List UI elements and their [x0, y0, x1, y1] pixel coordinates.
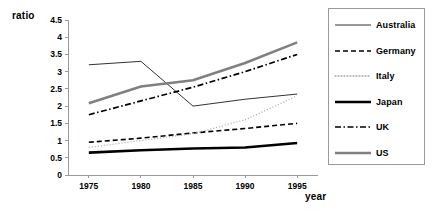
legend-label: Italy	[376, 71, 395, 81]
x-axis-tick-group: 19751980198519901995	[79, 175, 307, 191]
series-line-japan	[89, 143, 297, 153]
y-axis-tick-group: 00.511.522.533.544.5	[50, 15, 68, 180]
y-tick-label: 1	[57, 136, 62, 146]
legend-item-japan[interactable]: Japan	[329, 89, 426, 115]
series-line-italy	[89, 96, 297, 148]
y-tick-label: 3	[57, 67, 62, 77]
legend-label: Germany	[376, 46, 416, 56]
y-tick-label: 2.5	[50, 84, 62, 94]
y-tick-label: 3.5	[50, 49, 62, 59]
legend-label: US	[376, 148, 389, 158]
x-tick-label: 1985	[184, 181, 203, 191]
y-tick-label: 0.5	[50, 153, 62, 163]
y-tick-label: 2	[57, 101, 62, 111]
legend-label: UK	[376, 122, 389, 132]
data-series-group	[89, 42, 297, 152]
y-tick-label: 0	[57, 170, 62, 180]
legend-swatch-germany-icon	[334, 44, 372, 58]
y-tick-label: 4	[57, 32, 62, 42]
x-tick-label: 1990	[236, 181, 255, 191]
series-line-germany	[89, 123, 297, 142]
legend-label: Japan	[376, 97, 403, 107]
legend-item-italy[interactable]: Italy	[329, 63, 426, 89]
legend-swatch-us-icon	[334, 146, 372, 160]
legend-item-us[interactable]: US	[329, 140, 426, 166]
x-tick-label: 1975	[79, 181, 98, 191]
legend-swatch-italy-icon	[334, 69, 372, 83]
chart-legend: AustraliaGermanyItalyJapanUKUS	[328, 8, 425, 165]
y-tick-label: 4.5	[50, 15, 62, 25]
legend-label: Australia	[376, 20, 415, 30]
series-line-australia	[89, 61, 297, 106]
x-tick-label: 1995	[288, 181, 307, 191]
series-line-us	[89, 42, 297, 103]
legend-item-germany[interactable]: Germany	[329, 38, 426, 64]
legend-swatch-australia-icon	[334, 18, 372, 32]
chart-container: ratio year 00.511.522.533.544.5 19751980…	[0, 0, 443, 217]
y-tick-label: 1.5	[50, 118, 62, 128]
x-tick-label: 1980	[131, 181, 150, 191]
legend-swatch-uk-icon	[334, 120, 372, 134]
legend-swatch-japan-icon	[334, 95, 372, 109]
legend-item-uk[interactable]: UK	[329, 114, 426, 140]
legend-item-australia[interactable]: Australia	[329, 12, 426, 38]
